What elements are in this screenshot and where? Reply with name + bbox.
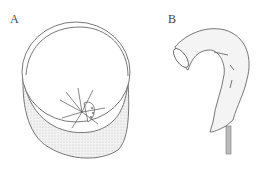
dish-illustration bbox=[22, 22, 130, 158]
hook-tube-illustration bbox=[171, 29, 249, 154]
figure-canvas bbox=[0, 0, 261, 174]
